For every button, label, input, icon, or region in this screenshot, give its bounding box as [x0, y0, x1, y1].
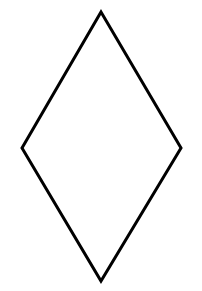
rhombus-figure	[0, 0, 202, 291]
drawing-canvas	[0, 0, 202, 291]
